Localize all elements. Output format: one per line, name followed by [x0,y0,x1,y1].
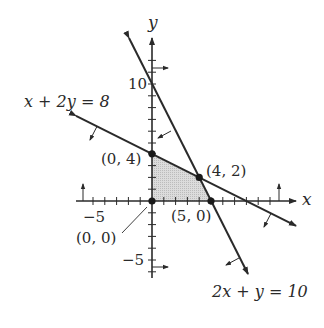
vertex-label-4-2: (4, 2) [206,164,246,179]
line2-direction-arrow-bottom [226,258,239,265]
vertex-label-0-0: (0, 0) [76,231,116,246]
line2-direction-arrow-top [158,131,171,138]
line1-direction-arrow-right [264,213,271,227]
y-tick-label-10: 10 [128,77,147,92]
x-axis-label: x [302,191,312,208]
vertex-label-5-0: (5, 0) [171,209,211,224]
line1-equation-label: x + 2y = 8 [24,94,110,110]
vertex-label-0-4: (0, 4) [101,152,141,167]
origin-leader-line [122,207,147,233]
line1-direction-arrow-left [90,126,97,140]
coordinate-plane [0,0,324,328]
y-tick-label-neg5: −5 [122,253,144,268]
vertex-5-0 [207,197,214,204]
x-tick-label-neg5: −5 [83,210,105,225]
feasible-region-diagram: y x 10 −5 −5 x + 2y = 8 2x + y = 10 (0, … [0,0,324,328]
vertex-4-2 [196,174,203,181]
line-2x-plus-y-eq-10 [129,38,248,274]
line2-equation-label: 2x + y = 10 [212,284,308,300]
y-axis-label: y [148,14,158,31]
vertex-0-4 [148,150,155,157]
vertex-0-0 [148,197,155,204]
